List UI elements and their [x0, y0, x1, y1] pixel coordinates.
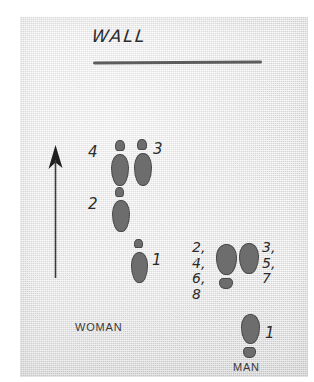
footprint-diagram: WALL 4 3 2 1 — [0, 0, 314, 382]
footprint-sole — [216, 244, 237, 275]
step-numbers-man-right: 3, 5, 7 — [262, 240, 275, 287]
step-number-woman-2: 2 — [88, 197, 98, 213]
footprint-sole — [131, 252, 148, 283]
footprint-sole — [239, 243, 259, 274]
wall-line — [93, 61, 262, 65]
footprint-pad — [137, 139, 147, 150]
footprint-sole — [134, 153, 152, 186]
footprint-woman-3 — [134, 139, 152, 187]
wall-label: WALL — [91, 28, 148, 45]
footprint-pad — [243, 347, 256, 358]
footprint-pad — [134, 239, 143, 248]
footprint-man-left — [216, 244, 237, 290]
direction-of-travel-arrow-icon — [40, 142, 72, 282]
footprint-man-1 — [241, 314, 260, 359]
step-number-man-1: 1 — [265, 326, 275, 342]
footprint-woman-1 — [131, 239, 149, 286]
footprint-sole — [111, 154, 129, 186]
step-numbers-man-left: 2, 4, 6, 8 — [192, 240, 205, 303]
diagram-content: WALL 4 3 2 1 — [0, 0, 314, 382]
step-number-woman-1: 1 — [152, 253, 162, 269]
footprint-man-right — [239, 243, 259, 275]
footprint-woman-4 — [111, 140, 129, 188]
step-number-woman-4: 4 — [88, 145, 98, 161]
footprint-woman-2 — [112, 187, 130, 235]
footprint-sole — [241, 314, 260, 344]
step-number-woman-3: 3 — [153, 142, 163, 158]
footprint-pad — [115, 140, 125, 151]
footprint-pad — [219, 278, 233, 289]
woman-label: WOMAN — [75, 322, 122, 333]
footprint-sole — [112, 200, 130, 232]
footprint-pad — [115, 187, 124, 197]
man-label: MAN — [233, 362, 260, 373]
